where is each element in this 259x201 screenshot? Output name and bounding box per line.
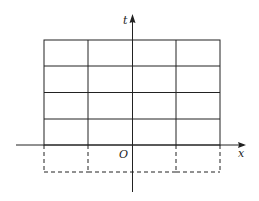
diagram-canvas: t x O — [0, 0, 259, 201]
t-axis-label: t — [123, 14, 128, 27]
t-axis-arrow-icon — [130, 14, 136, 23]
x-axis-label: x — [238, 147, 245, 160]
origin-label: O — [119, 148, 128, 161]
